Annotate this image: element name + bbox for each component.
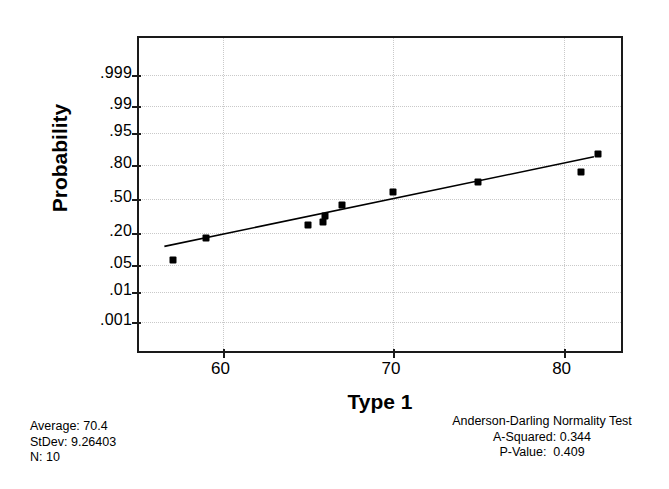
n-line: N: 10 [30,450,116,466]
y-tick-label-99: .99 [109,96,132,112]
y-tick-label-95: .95 [109,123,132,139]
normal-fit-line [139,38,621,351]
data-point [594,150,601,157]
y-tick-label-999: .999 [100,65,132,81]
normal-probability-plot-figure: .999 .99 .95 .80 .50 .20 .05 .01 .001 Pr… [0,0,669,489]
data-point [304,222,311,229]
x-tick-label-60: 60 [211,360,230,377]
data-point [170,257,177,264]
y-tick-label-20: .20 [109,223,132,239]
a-squared-line: A-Squared: 0.344 [428,430,656,446]
average-line: Average: 70.4 [30,419,116,435]
x-axis-title: Type 1 [137,390,623,414]
data-point [338,201,345,208]
plot-area [137,36,623,353]
y-axis-title: Probability [48,58,72,258]
anderson-darling-title: Anderson-Darling Normality Test [428,414,656,430]
stdev-line: StDev: 9.26403 [30,435,116,451]
y-tick-label-01: .01 [109,282,132,298]
anderson-darling-test-block: Anderson-Darling Normality Test A-Square… [428,414,656,461]
y-tick-label-05: .05 [109,255,132,271]
x-tick-label-80: 80 [552,360,571,377]
y-axis-tick-labels: .999 .99 .95 .80 .50 .20 .05 .01 .001 [80,36,132,353]
data-point [202,234,209,241]
data-point [390,188,397,195]
p-value-line: P-Value: 0.409 [428,445,656,461]
y-tick-label-50: .50 [109,189,132,205]
data-point [577,168,584,175]
x-axis-tick-labels: 60 70 80 [137,360,623,382]
y-tick-label-80: .80 [109,155,132,171]
data-point [321,213,328,220]
x-tick-label-70: 70 [382,360,401,377]
data-point [475,179,482,186]
descriptive-statistics-block: Average: 70.4 StDev: 9.26403 N: 10 [30,419,116,466]
y-tick-label-001: .001 [100,312,132,328]
